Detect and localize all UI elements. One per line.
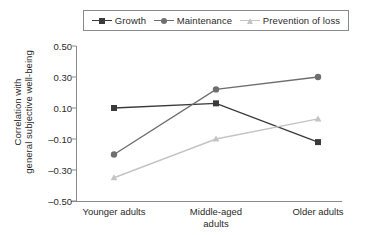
chart-legend: Growth Maintenance Prevention of loss <box>83 10 349 31</box>
circle-marker-icon <box>111 151 117 157</box>
y-axis-title-line1: Correlation with <box>12 36 23 188</box>
x-tick-label-line: Younger adults <box>82 206 145 218</box>
square-marker-icon <box>111 105 117 111</box>
y-tick-label: –0.10 <box>48 134 72 145</box>
chart-figure: Growth Maintenance Prevention of loss Co… <box>0 0 365 235</box>
square-marker-icon <box>99 18 105 24</box>
legend-label-prevention-of-loss: Prevention of loss <box>263 16 340 26</box>
y-tick-label: 0.10 <box>54 103 73 114</box>
legend-label-growth: Growth <box>115 16 146 26</box>
x-tick-label: Middle-agedadults <box>190 206 242 229</box>
series-prevention-of-loss <box>111 115 322 180</box>
x-tick-label-line: adults <box>190 218 242 230</box>
series-maintenance <box>111 74 321 158</box>
legend-swatch-maintenance <box>154 16 174 26</box>
legend-label-maintenance: Maintenance <box>177 16 233 26</box>
circle-marker-icon <box>315 74 321 80</box>
x-tick-label-line: Older adults <box>292 206 343 218</box>
legend-item-growth: Growth <box>92 16 146 26</box>
legend-swatch-prevention-of-loss <box>240 16 260 26</box>
y-tick-label: –0.50 <box>48 196 72 207</box>
x-tick-label: Younger adults <box>82 206 145 218</box>
y-tick-label: 0.50 <box>54 41 73 52</box>
data-series-layer <box>76 46 342 201</box>
legend-item-prevention-of-loss: Prevention of loss <box>240 16 340 26</box>
y-tick-label: 0.30 <box>54 72 73 83</box>
legend-item-maintenance: Maintenance <box>154 16 233 26</box>
plot-area: Correlation with general subjective well… <box>0 36 365 235</box>
x-tick-label: Older adults <box>292 206 343 218</box>
x-axis-line <box>71 201 342 202</box>
x-tick-label-line: Middle-aged <box>190 206 242 218</box>
legend-swatch-growth <box>92 16 112 26</box>
series-line <box>114 119 318 178</box>
circle-marker-icon <box>161 18 167 24</box>
triangle-marker-icon <box>247 18 253 24</box>
y-axis-title-line2: general subjective well-being <box>23 36 34 188</box>
triangle-marker-icon <box>315 115 322 121</box>
y-axis-title: Correlation with general subjective well… <box>12 36 40 188</box>
axes: 0.500.300.10–0.10–0.30–0.50 Younger adul… <box>76 46 342 201</box>
square-marker-icon <box>315 139 321 145</box>
square-marker-icon <box>213 100 219 106</box>
y-tick-label: –0.30 <box>48 165 72 176</box>
circle-marker-icon <box>213 86 219 92</box>
